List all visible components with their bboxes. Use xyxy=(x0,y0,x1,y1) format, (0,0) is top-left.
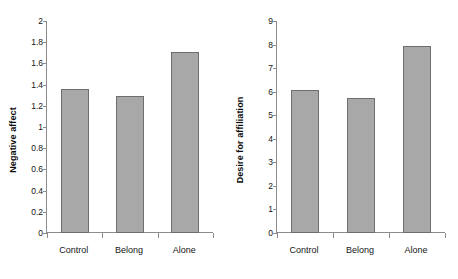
y-axis-tick-mark xyxy=(273,45,277,46)
y-axis-tick-label: 1.6 xyxy=(31,59,43,68)
y-axis-tick-label: 0.6 xyxy=(31,165,43,174)
y-axis-tick-mark xyxy=(273,115,277,116)
y-axis-tick-labels: 00.20.40.60.811.21.41.61.82 xyxy=(19,21,43,233)
y-axis-tick-mark xyxy=(43,169,47,170)
y-axis-tick-mark xyxy=(43,21,47,22)
bar-alone[interactable] xyxy=(171,52,199,233)
x-axis-category-label: Belong xyxy=(332,243,388,257)
y-axis-tick-mark xyxy=(43,191,47,192)
y-axis-tick-mark xyxy=(273,92,277,93)
bar-belong[interactable] xyxy=(116,96,144,233)
y-axis-title-label: Negative affect xyxy=(8,107,18,173)
x-axis-category-label: Belong xyxy=(101,243,156,257)
y-axis-tick-mark xyxy=(273,209,277,210)
x-axis-category-labels: ControlBelongAlone xyxy=(46,243,212,257)
y-axis-tick-label: 0.8 xyxy=(31,144,43,153)
chart-panel-desire-for-affiliation: Desire for affiliation 0123456789 Contro… xyxy=(229,0,458,279)
plot-area xyxy=(46,21,213,233)
bar-control[interactable] xyxy=(291,90,319,233)
bar-slot xyxy=(47,21,102,233)
y-axis-tick-label: 0.2 xyxy=(31,208,43,217)
y-axis-tick-label: 1.4 xyxy=(31,80,43,89)
y-axis-tick-label: 0.4 xyxy=(31,186,43,195)
y-axis-tick-mark xyxy=(43,148,47,149)
plot-area xyxy=(276,21,445,233)
x-axis-category-labels: ControlBelongAlone xyxy=(276,243,444,257)
x-axis-category-label: Alone xyxy=(388,243,444,257)
bar-alone[interactable] xyxy=(403,46,431,233)
y-axis-tick-mark xyxy=(43,85,47,86)
bar-slot xyxy=(333,21,389,233)
y-axis-title: Desire for affiliation xyxy=(229,0,251,279)
bar-slot xyxy=(102,21,157,233)
y-axis-tick-mark xyxy=(273,162,277,163)
x-axis-category-label: Alone xyxy=(157,243,212,257)
x-axis-tick-mark xyxy=(333,233,334,238)
y-axis-tick-label: 1.8 xyxy=(31,38,43,47)
bar-slot xyxy=(158,21,213,233)
y-axis-tick-label: 1.2 xyxy=(31,102,43,111)
bar-group xyxy=(47,21,213,233)
y-axis-tick-mark xyxy=(43,42,47,43)
x-axis-tick-mark xyxy=(47,233,48,238)
x-axis-tick-mark xyxy=(213,233,214,238)
y-axis-tick-mark xyxy=(43,106,47,107)
y-axis-title-label: Desire for affiliation xyxy=(235,96,245,183)
x-axis-category-label: Control xyxy=(46,243,101,257)
y-axis-tick-mark xyxy=(43,127,47,128)
bar-belong[interactable] xyxy=(347,98,375,233)
y-axis-tick-mark xyxy=(43,63,47,64)
x-axis-tick-mark xyxy=(445,233,446,238)
x-axis-tick-mark xyxy=(277,233,278,238)
chart-panel-negative-affect: Negative affect 00.20.40.60.811.21.41.61… xyxy=(0,0,229,279)
bar-group xyxy=(277,21,445,233)
y-axis-tick-mark xyxy=(273,21,277,22)
x-axis-tick-mark xyxy=(158,233,159,238)
bar-slot xyxy=(277,21,333,233)
figure: Negative affect 00.20.40.60.811.21.41.61… xyxy=(0,0,458,279)
y-axis-tick-mark xyxy=(273,68,277,69)
x-axis-category-label: Control xyxy=(276,243,332,257)
y-axis-tick-mark xyxy=(273,139,277,140)
y-axis-tick-labels: 0123456789 xyxy=(249,21,273,233)
x-axis-tick-mark xyxy=(389,233,390,238)
bar-slot xyxy=(389,21,445,233)
y-axis-tick-mark xyxy=(273,186,277,187)
x-axis-tick-mark xyxy=(102,233,103,238)
bar-control[interactable] xyxy=(61,89,89,233)
y-axis-tick-mark xyxy=(43,212,47,213)
